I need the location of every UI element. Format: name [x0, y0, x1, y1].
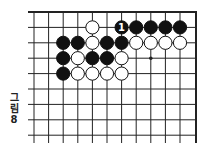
black-stone-icon [130, 21, 143, 34]
black-stone [159, 21, 172, 34]
black-stone-icon [71, 36, 84, 49]
white-stone-icon [144, 36, 157, 49]
white-stone-icon [115, 52, 128, 65]
white-stone-icon [86, 21, 99, 34]
black-stone [57, 36, 70, 49]
star-points [149, 56, 153, 60]
black-stone-icon [144, 21, 157, 34]
white-stone-icon [159, 36, 172, 49]
black-stone [115, 36, 128, 49]
black-stone [100, 52, 113, 65]
white-stone [159, 36, 172, 49]
black-stone [173, 21, 186, 34]
white-stone [130, 36, 143, 49]
figure-caption: 그 림 8 [6, 92, 22, 125]
black-stone [57, 52, 70, 65]
white-stone-icon [71, 67, 84, 80]
black-stone: 1 [115, 21, 128, 34]
white-stone [100, 67, 113, 80]
white-stone-icon [86, 36, 99, 49]
white-stone-icon [71, 52, 84, 65]
black-stone [130, 21, 143, 34]
caption-char-1: 그 [6, 92, 22, 103]
white-stone [86, 36, 99, 49]
black-stone [57, 67, 70, 80]
black-stone-icon [57, 52, 70, 65]
white-stone-icon [130, 36, 143, 49]
black-stone-icon [86, 52, 99, 65]
black-stone-icon [57, 67, 70, 80]
black-stone [100, 36, 113, 49]
white-stone [71, 52, 84, 65]
white-stone [86, 21, 99, 34]
caption-char-3: 8 [6, 114, 22, 125]
go-board: 1 [0, 0, 211, 155]
move-number-label: 1 [118, 22, 125, 33]
white-stone [115, 67, 128, 80]
white-stone [115, 52, 128, 65]
black-stone-icon [159, 21, 172, 34]
black-stone-icon [173, 21, 186, 34]
white-stone-icon [100, 67, 113, 80]
caption-char-2: 림 [6, 103, 22, 114]
white-stone-icon [86, 67, 99, 80]
white-stone-icon [173, 36, 186, 49]
black-stone [144, 21, 157, 34]
black-stone [86, 52, 99, 65]
black-stone-icon [115, 36, 128, 49]
white-stone [71, 67, 84, 80]
black-stone-icon [100, 52, 113, 65]
white-stone [86, 67, 99, 80]
white-stone-icon [115, 67, 128, 80]
black-stone-icon [57, 36, 70, 49]
black-stone-icon [100, 36, 113, 49]
star-point [149, 56, 153, 60]
white-stone [173, 36, 186, 49]
black-stone [71, 36, 84, 49]
white-stone [144, 36, 157, 49]
